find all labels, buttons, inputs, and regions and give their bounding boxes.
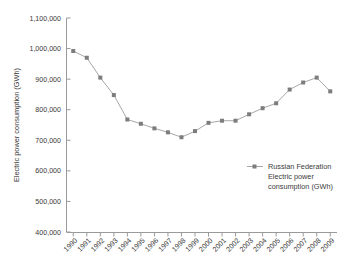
data-point-marker — [301, 81, 305, 85]
chart-container: Electric power consumption (GWh) 1,100,0… — [0, 0, 357, 270]
data-point-marker — [328, 89, 332, 93]
data-point-marker — [125, 118, 129, 122]
y-axis-tick-label: 900,000 — [35, 76, 61, 84]
y-axis-tick-label: 800,000 — [35, 106, 61, 114]
x-axis-tick-label: 2000 — [198, 237, 215, 254]
data-point-marker — [247, 112, 251, 116]
x-axis-tick-label: 2007 — [292, 237, 309, 254]
series-markers — [71, 49, 332, 139]
data-point-marker — [274, 101, 278, 105]
data-point-marker — [315, 76, 319, 80]
y-axis-tick-label: 400,000 — [35, 229, 61, 237]
series-line-russian-federation — [73, 51, 330, 137]
legend-label-line-2: Electric power — [268, 172, 314, 181]
x-axis-tick-label: 1991 — [76, 237, 93, 254]
x-axis-tick-label: 2004 — [252, 237, 269, 254]
data-point-marker — [220, 119, 224, 123]
data-point-marker — [71, 49, 75, 53]
data-point-marker — [193, 129, 197, 133]
data-point-marker — [85, 56, 89, 60]
y-axis-tick-label: 700,000 — [35, 137, 61, 145]
data-point-marker — [98, 76, 102, 80]
y-axis-tick-labels: 1,100,0001,000,000900,000800,000700,0006… — [29, 15, 61, 237]
x-axis-tick-label: 2001 — [211, 237, 228, 254]
x-axis-tick-label: 1995 — [130, 237, 147, 254]
x-axis-tick-labels: 1990199119921993199419951996199719981999… — [62, 237, 336, 254]
data-point-marker — [112, 93, 116, 97]
legend-label-line-3: consumption (GWh) — [268, 182, 333, 191]
x-axis-tick-label: 2009 — [319, 237, 336, 254]
data-point-marker — [288, 88, 292, 92]
y-axis-tick-label: 1,100,000 — [29, 15, 61, 23]
x-axis-tick-label: 1994 — [116, 237, 133, 254]
line-chart: Electric power consumption (GWh) 1,100,0… — [0, 0, 357, 270]
x-axis-tick-label: 2002 — [225, 237, 242, 254]
x-axis-tick-label: 1999 — [184, 237, 201, 254]
x-axis-tick-label: 1990 — [62, 237, 79, 254]
data-point-marker — [261, 106, 265, 110]
x-axis-tick-label: 1997 — [157, 237, 174, 254]
x-axis-tick-label: 1996 — [144, 237, 161, 254]
y-axis-tick-marks — [67, 18, 71, 232]
data-point-marker — [166, 130, 170, 134]
y-axis-tick-label: 600,000 — [35, 167, 61, 175]
y-axis-tick-label: 500,000 — [35, 198, 61, 206]
legend: Russian Federation Electric power consum… — [247, 162, 333, 191]
y-axis-title-group: Electric power consumption (GWh) — [12, 68, 21, 182]
data-point-marker — [179, 135, 183, 139]
y-axis-title: Electric power consumption (GWh) — [12, 68, 21, 182]
legend-swatch-marker — [253, 165, 257, 169]
x-axis-tick-label: 1992 — [89, 237, 106, 254]
data-point-marker — [152, 126, 156, 130]
legend-label-line-1: Russian Federation — [268, 162, 331, 171]
x-axis-tick-label: 2006 — [279, 237, 296, 254]
data-point-marker — [234, 119, 238, 123]
x-axis-tick-label: 2005 — [265, 237, 282, 254]
x-axis-tick-marks — [73, 233, 330, 237]
x-axis-tick-label: 2008 — [306, 237, 323, 254]
data-point-marker — [207, 121, 211, 125]
x-axis-tick-label: 1993 — [103, 237, 120, 254]
x-axis-tick-label: 2003 — [238, 237, 255, 254]
y-axis-tick-label: 1,000,000 — [29, 45, 61, 53]
data-point-marker — [139, 122, 143, 126]
x-axis-tick-label: 1998 — [171, 237, 188, 254]
